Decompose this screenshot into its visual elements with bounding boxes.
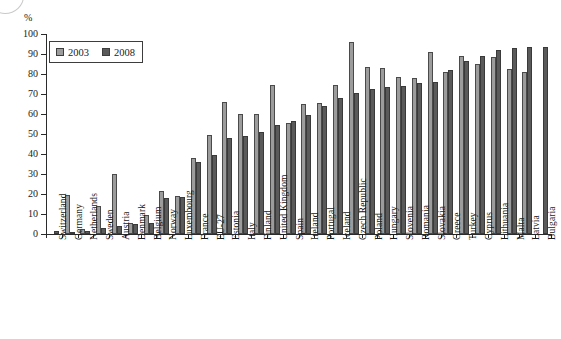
y-axis-tick: 10 (41, 214, 46, 215)
x-axis-category-label: Austria (121, 211, 131, 240)
x-axis-tick (46, 234, 47, 238)
legend-label: 2008 (114, 47, 135, 58)
y-axis-tick: 90 (41, 54, 46, 55)
y-axis-tick: 40 (41, 154, 46, 155)
y-axis-unit-label: % (24, 12, 33, 23)
x-axis-category-label: Ireland (310, 212, 320, 240)
scan-artifact (0, 0, 24, 14)
bar-group (159, 34, 169, 234)
x-axis-category-label: Sweden (105, 209, 115, 240)
legend-swatch-icon (102, 48, 110, 56)
bar-2008 (464, 61, 469, 234)
bar-group (380, 34, 390, 234)
bar-group (301, 34, 311, 234)
x-axis-category-label: Turkey (468, 212, 478, 240)
y-axis-tick: 50 (41, 134, 46, 135)
y-axis-line (46, 34, 47, 234)
bar-group (412, 34, 422, 234)
x-axis-category-label: Bulgaria (547, 206, 557, 240)
x-axis-category-label: Luxembourg (184, 190, 194, 240)
legend-swatch-icon (56, 48, 64, 56)
bar-group (112, 34, 122, 234)
bar-group (522, 34, 532, 234)
y-axis-tick: 60 (41, 114, 46, 115)
bar-2008 (448, 70, 453, 234)
legend-item-2003: 2003 (56, 47, 89, 58)
legend: 2003 2008 (49, 41, 143, 63)
x-axis-category-label: Estonia (231, 211, 241, 240)
x-axis-category-label: Czech Republic (358, 178, 368, 240)
bar-group (538, 34, 548, 234)
y-axis-tick-label: 40 (28, 147, 38, 160)
legend-label: 2003 (68, 47, 89, 58)
x-axis-category-label: Romania (421, 205, 431, 240)
y-axis-tick: 80 (41, 74, 46, 75)
bar-chart: % 0102030405060708090100 SwitzerlandGerm… (0, 0, 561, 339)
x-axis-category-label: Cyprus (484, 212, 494, 240)
bar-group (443, 34, 453, 234)
bar-group (396, 34, 406, 234)
y-axis-tick: 70 (41, 94, 46, 95)
bar-2008 (512, 48, 517, 234)
y-axis-tick-label: 50 (28, 127, 38, 140)
bar-group (475, 34, 485, 234)
x-axis-category-label: EU-27 (216, 214, 226, 240)
x-axis-category-label: France (200, 214, 210, 240)
x-axis-category-label: Portugal (326, 207, 336, 240)
x-axis-category-label: Poland (374, 213, 384, 240)
x-axis-category-label: Germany (74, 204, 84, 240)
bar-group (254, 34, 264, 234)
bar-2008 (480, 56, 485, 234)
x-axis-category-label: Greece (452, 213, 462, 241)
x-axis-category-label: United Kingdom (279, 174, 289, 240)
x-axis-category-label: Lithuania (500, 203, 510, 240)
x-axis-category-label: Italy (247, 222, 257, 240)
x-axis-category-label: Norway (168, 209, 178, 240)
y-axis-tick-label: 60 (28, 107, 38, 120)
legend-item-2008: 2008 (102, 47, 135, 58)
bar-group (428, 34, 438, 234)
bar-group (238, 34, 248, 234)
y-axis-tick-label: 100 (23, 27, 38, 40)
bar-2008 (243, 136, 248, 234)
y-axis-tick-label: 20 (28, 187, 38, 200)
bar-group (222, 34, 232, 234)
x-axis-category-label: Latvia (531, 215, 541, 240)
x-axis-category-label: Hungary (389, 206, 399, 240)
y-axis-tick-label: 0 (33, 227, 38, 240)
plot-area: 0102030405060708090100 (46, 34, 551, 234)
x-axis-category-label: Slovenia (405, 206, 415, 240)
bar-group (459, 34, 469, 234)
bar-group (317, 34, 327, 234)
y-axis-tick-label: 70 (28, 87, 38, 100)
x-axis-category-label: Denmark (137, 204, 147, 240)
y-axis-tick-label: 90 (28, 47, 38, 60)
x-axis-category-label: Netherlands (89, 193, 99, 240)
bar-group (207, 34, 217, 234)
y-axis-tick-label: 30 (28, 167, 38, 180)
bar-group (333, 34, 343, 234)
y-axis-tick: 20 (41, 194, 46, 195)
x-axis-category-label: Malta (516, 217, 526, 240)
bar-2008 (527, 47, 532, 234)
x-axis-category-label: Iceland (342, 211, 352, 240)
y-axis-tick-label: 80 (28, 67, 38, 80)
x-axis-category-label: Slovakia (437, 206, 447, 240)
x-axis-category-label: Switzerland (58, 194, 68, 240)
x-axis-category-label: Spain (295, 218, 305, 240)
y-axis-tick: 30 (41, 174, 46, 175)
x-axis-category-label: Finland (263, 210, 273, 240)
y-axis-tick-label: 10 (28, 207, 38, 220)
x-axis-category-label: Belgium (153, 207, 163, 240)
y-axis-tick: 100 (41, 34, 46, 35)
